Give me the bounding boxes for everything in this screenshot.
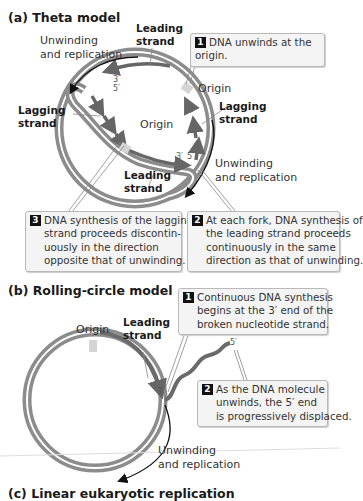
step-badge: 1 (195, 37, 206, 48)
callout-b-2: 2As the DNA molecule unwinds, the 5′ end… (197, 380, 328, 427)
rolling-leading-label: Leading strand (123, 316, 170, 342)
rolling-origin-marker (89, 340, 97, 352)
callout-b-1: 1Continuous DNA synthesis begins at the … (178, 288, 328, 335)
leading-strand-label-bottom: Leading strand (124, 169, 171, 195)
rolling-unwinding-label: Unwinding and replication (158, 444, 240, 472)
step-badge: 1 (183, 292, 194, 303)
prime-5-bottom: 5′ (187, 152, 194, 161)
prime-3-top: 3′ (113, 75, 120, 84)
prime-5-top: 5′ (113, 84, 120, 93)
panel-c-title: (c) Linear eukaryotic replication (8, 486, 235, 501)
step-badge: 3 (30, 215, 41, 226)
rolling-prime-5: 5′ (230, 338, 237, 347)
unwinding-label-right: Unwinding and replication (215, 157, 297, 185)
new-strand-arrows (92, 64, 198, 165)
callout-a-1: 1DNA unwinds at the origin. (190, 33, 325, 67)
callout-a-2: 2At each fork, DNA synthesis of the lead… (187, 211, 340, 272)
step-badge: 2 (202, 384, 213, 395)
origin-label-outer: Origin (198, 82, 231, 96)
prime-3-bottom: 3′ (176, 152, 183, 161)
callout-a-3: 3DNA synthesis of the lagging strand pro… (25, 211, 182, 272)
leading-strand-label-top: Leading strand (136, 22, 183, 48)
unwinding-label-left: Unwinding and replication (40, 34, 122, 62)
rolling-origin-label: Origin (76, 323, 109, 337)
lagging-strand-label-left: Lagging strand (18, 104, 65, 130)
step-badge: 2 (192, 215, 203, 226)
panel-b-title: (b) Rolling-circle model (8, 283, 173, 298)
lagging-strand-label-right: Lagging strand (219, 100, 266, 126)
rolling-prime-3: 3′ (157, 387, 164, 396)
origin-label-inner: Origin (140, 118, 173, 132)
